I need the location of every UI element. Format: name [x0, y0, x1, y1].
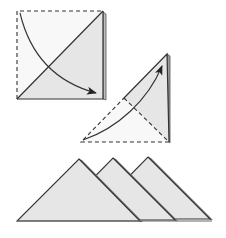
diagram-svg [0, 0, 226, 238]
step-1-folded-square [17, 11, 106, 100]
origami-diagram [0, 0, 226, 238]
step-3-triangles-row [17, 157, 213, 222]
